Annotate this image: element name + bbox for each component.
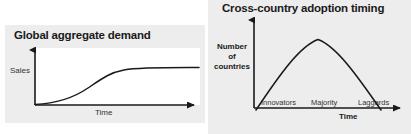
right-y-axis-label-line2: of [210, 52, 254, 62]
category-label-laggards: Laggards [358, 98, 389, 107]
left-chart-title: Global aggregate demand [14, 29, 151, 41]
right-x-axis-label: Time [339, 112, 358, 121]
right-y-axis-label: Number of countries [210, 42, 254, 71]
right-chart-title: Cross-country adoption timing [222, 2, 384, 14]
left-y-axis-label: Sales [10, 66, 30, 75]
right-y-axis-label-line1: Number [210, 42, 254, 52]
category-label-majority: Majority [311, 98, 337, 107]
category-label-innovators: Innovators [261, 98, 296, 107]
two-panel-figure: Global aggregate demand Sales Time Cross… [0, 0, 411, 134]
right-y-axis-label-line3: countries [210, 62, 254, 72]
plot-area-left [35, 48, 200, 105]
left-x-axis-label: Time [95, 108, 112, 117]
